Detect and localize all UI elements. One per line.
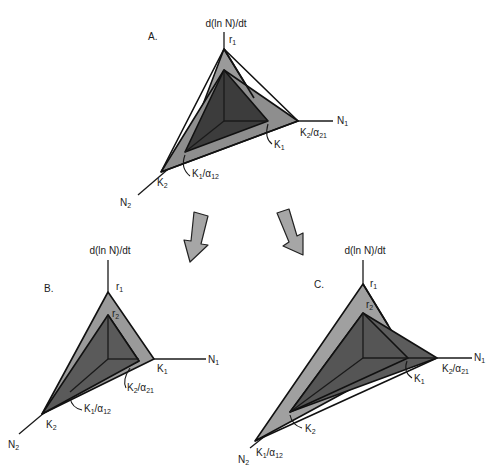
panel-label: C. [314,279,324,290]
n2-axis-label: N2 [120,197,131,209]
k2-a21-label: K2/α21 [127,382,154,394]
k1-a12-label: K1/α12 [192,168,219,180]
arrow-a-to-b-icon [184,212,208,262]
r1-label: r1 [116,281,123,293]
k1-label: K1 [157,363,168,375]
n1-axis-label: N1 [474,352,485,364]
k2-label: K2 [305,423,316,435]
k2-label: K2 [157,177,168,189]
k1-label: K1 [414,373,425,385]
panel-c: d(ln N)/dt C. r1 r2 N1 K2/α21 K1 K2 K1/α… [238,245,485,466]
k2-a21-label: K2/α21 [442,363,469,375]
r1-label: r1 [370,278,377,290]
panel-label: A. [148,31,157,42]
k2-label: K2 [46,419,57,431]
panel-b: d(ln N)/dt B. r1 r2 N1 K1 K2/α21 K1/α12 … [8,245,219,451]
n2-axis-label: N2 [238,454,249,466]
panel-label: B. [44,283,53,294]
n2-axis-label: N2 [8,439,19,451]
y-axis-label: d(ln N)/dt [344,245,385,256]
k1-label: K1 [274,139,285,151]
k1-a12-label: K1/α12 [256,447,283,459]
r1-label: r1 [229,34,236,46]
k2-a21-label: K2/α21 [300,127,327,139]
y-axis-label: d(ln N)/dt [89,245,130,256]
panel-a: d(ln N)/dt A. r1 N1 K2/α21 K1 K1/α12 K2 … [120,18,348,209]
arrow-a-to-c-icon [277,209,303,255]
competition-diagram: d(ln N)/dt A. r1 N1 K2/α21 K1 K1/α12 K2 … [0,0,499,468]
n1-axis-label: N1 [337,115,348,127]
k1-a12-label: K1/α12 [84,403,111,415]
y-axis-label: d(ln N)/dt [205,18,246,29]
n1-axis-label: N1 [208,354,219,366]
